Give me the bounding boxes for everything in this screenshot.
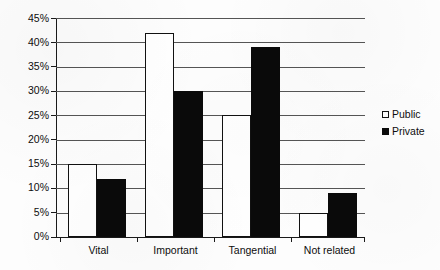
chart-legend: Public Private <box>382 106 440 140</box>
x-axis-line <box>56 237 365 238</box>
y-axis-tick-label: 20% <box>3 134 49 145</box>
bar-public-important <box>145 33 174 237</box>
bar-public-tangential <box>222 115 251 237</box>
bar-group-tangential <box>214 18 287 237</box>
y-axis-tick-label: 40% <box>3 37 49 48</box>
y-axis-tick-label: 35% <box>3 61 49 72</box>
legend-label-public: Public <box>392 109 421 120</box>
bar-private-important <box>174 91 203 237</box>
bar-private-not-related <box>328 193 357 237</box>
bar-private-vital <box>97 179 126 237</box>
y-axis-tick-label: 25% <box>3 110 49 121</box>
x-axis-tick <box>137 237 138 242</box>
x-axis-label-important: Important <box>137 245 214 256</box>
y-axis-labels: 45% 40% 35% 30% 25% 20% 15% 10% 5% 0% <box>0 0 49 270</box>
bar-private-tangential <box>251 47 280 237</box>
legend-swatch-private-icon <box>382 128 389 135</box>
x-axis-tick <box>291 237 292 242</box>
x-axis-tick <box>214 237 215 242</box>
legend-label-private: Private <box>392 126 425 137</box>
x-axis-label-vital: Vital <box>60 245 137 256</box>
bar-chart: 45% 40% 35% 30% 25% 20% 15% 10% 5% 0% <box>0 0 440 270</box>
y-axis-tick-label: 15% <box>3 158 49 169</box>
y-axis-tick-label: 5% <box>3 207 49 218</box>
y-axis-tick-label: 45% <box>3 13 49 24</box>
plot-area <box>56 18 365 237</box>
x-axis-tick <box>364 237 365 242</box>
legend-swatch-public-icon <box>382 111 389 118</box>
legend-item-private: Private <box>382 123 440 140</box>
y-axis-tick-label: 30% <box>3 85 49 96</box>
y-axis-tick-label: 0% <box>3 231 49 242</box>
x-axis-tick <box>60 237 61 242</box>
bar-group-important <box>137 18 210 237</box>
legend-item-public: Public <box>382 106 440 123</box>
y-axis-tick-label: 10% <box>3 182 49 193</box>
bar-group-not-related <box>291 18 364 237</box>
bar-public-not-related <box>299 213 328 237</box>
x-axis-label-tangential: Tangential <box>214 245 291 256</box>
bar-group-vital <box>60 18 133 237</box>
bar-public-vital <box>68 164 97 237</box>
x-axis-label-not-related: Not related <box>291 245 368 256</box>
